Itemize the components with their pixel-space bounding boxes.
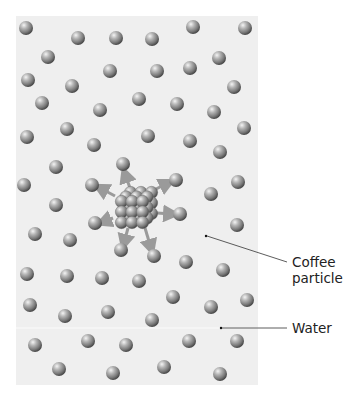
water-particle	[116, 157, 130, 171]
water-particle	[145, 32, 159, 46]
water-particle	[207, 105, 221, 119]
water-particle	[186, 20, 200, 34]
water-particle	[23, 298, 37, 312]
water-particle	[237, 121, 251, 135]
water-particle	[141, 129, 155, 143]
water-particle	[63, 233, 77, 247]
water-particle	[204, 187, 218, 201]
water-particle	[147, 249, 161, 263]
water-particle	[81, 334, 95, 348]
water-particle	[213, 145, 227, 159]
water-particle	[19, 21, 33, 35]
water-particle	[204, 300, 218, 314]
water-particle	[20, 267, 34, 281]
water-particle	[106, 366, 120, 380]
coffee-particle-label: Coffee particle	[292, 254, 343, 286]
water-particle	[20, 130, 34, 144]
water-particle	[88, 216, 102, 230]
arrow-icon	[125, 174, 130, 188]
water-particle	[145, 313, 159, 327]
water-particle	[52, 362, 66, 376]
water-particle	[41, 50, 55, 64]
water-particle	[230, 218, 244, 232]
coffee-molecule	[136, 216, 148, 228]
water-particle	[132, 274, 146, 288]
coffee-marker-dot	[205, 235, 207, 237]
arrow-icon	[145, 228, 151, 248]
water-particle	[170, 97, 184, 111]
coffee-label-line2: particle	[292, 270, 343, 286]
water-particle	[157, 360, 171, 374]
water-particle	[166, 290, 180, 304]
water-marker-dot	[220, 327, 222, 329]
water-particle	[119, 338, 133, 352]
water-particle	[28, 227, 42, 241]
water-particle	[21, 73, 35, 87]
water-particle	[60, 269, 74, 283]
water-particle	[17, 178, 31, 192]
water-particle	[93, 103, 107, 117]
water-particle	[109, 31, 123, 45]
water-particle	[231, 175, 245, 189]
water-particle	[213, 367, 227, 381]
coffee-leader-line	[207, 236, 287, 262]
water-particle	[132, 92, 146, 106]
arrow-icon	[103, 218, 113, 222]
water-particle	[49, 160, 63, 174]
water-particle	[182, 334, 196, 348]
water-particle	[49, 198, 63, 212]
water-particle	[169, 173, 183, 187]
water-particle	[95, 271, 109, 285]
water-particle	[101, 305, 115, 319]
water-particle	[212, 51, 226, 65]
water-particle	[87, 138, 101, 152]
water-particle	[179, 255, 193, 269]
water-particle	[227, 80, 241, 94]
arrow-icon	[100, 188, 115, 196]
water-particle	[28, 338, 42, 352]
water-particle	[183, 134, 197, 148]
water-particle	[65, 79, 79, 93]
water-particle	[60, 122, 74, 136]
water-particle	[216, 263, 230, 277]
coffee-cluster	[115, 186, 157, 228]
water-particle	[150, 64, 164, 78]
water-particle	[35, 96, 49, 110]
water-particle	[71, 31, 85, 45]
water-particle	[103, 64, 117, 78]
water-particle	[173, 207, 187, 221]
arrow-icon	[124, 228, 128, 243]
leader-lines	[205, 235, 287, 329]
water-particle	[58, 309, 72, 323]
water-particle	[240, 293, 254, 307]
water-particle	[85, 178, 99, 192]
coffee-label-line1: Coffee	[292, 254, 343, 270]
water-particle	[114, 243, 128, 257]
arrow-icon	[157, 213, 172, 214]
water-particle	[238, 21, 252, 35]
water-particle	[183, 61, 197, 75]
water-particle	[230, 334, 244, 348]
water-label: Water	[292, 320, 332, 336]
